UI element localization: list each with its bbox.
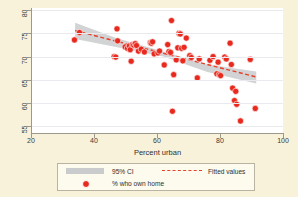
legend-label-fitted: Fitted values: [208, 168, 245, 175]
legend-label-ci: 95% CI: [112, 168, 134, 175]
y-tick: [27, 126, 31, 127]
x-tick-label: 40: [79, 137, 109, 144]
fitted-line: [75, 31, 256, 77]
x-tick-label: 20: [16, 137, 46, 144]
chart-figure: 55606570758020406080100 Percent urban 95…: [0, 0, 298, 197]
marker-swatch: [82, 180, 90, 188]
fitted-line-swatch: [162, 170, 202, 171]
data-point: [237, 118, 243, 124]
data-point: [218, 72, 224, 78]
data-point: [181, 44, 187, 50]
x-tick-label: 60: [142, 137, 172, 144]
ci-band-swatch: [66, 168, 104, 174]
y-tick: [27, 57, 31, 58]
data-point: [167, 49, 173, 55]
gridline: [31, 10, 283, 11]
plot-area: [31, 8, 283, 133]
data-point: [183, 35, 189, 41]
y-tick: [27, 103, 31, 104]
data-point: [168, 17, 174, 23]
data-point: [228, 61, 234, 67]
gridline: [31, 80, 283, 81]
x-tick-label: 100: [268, 137, 298, 144]
data-point: [128, 58, 134, 64]
data-point: [141, 49, 147, 55]
gridline: [31, 33, 283, 34]
data-point: [115, 38, 121, 44]
chart-legend: 95% CI Fitted values % who own home: [57, 163, 255, 191]
gridline: [31, 103, 283, 104]
scatter-plot-canvas: [31, 8, 283, 133]
data-point: [233, 88, 239, 94]
data-point: [215, 59, 221, 65]
data-point: [114, 26, 120, 32]
data-point: [169, 108, 175, 114]
data-point: [180, 58, 186, 64]
data-point: [71, 37, 77, 43]
gridline: [31, 126, 283, 127]
x-axis-title: Percent urban: [31, 148, 284, 157]
x-tick-label: 80: [205, 137, 235, 144]
gridline: [31, 57, 283, 58]
y-tick: [27, 10, 31, 11]
legend-label-marker: % who own home: [112, 180, 164, 187]
y-tick: [27, 80, 31, 81]
data-point: [149, 39, 155, 45]
data-point: [161, 62, 167, 68]
y-tick-label: 80: [21, 10, 28, 40]
y-tick: [27, 33, 31, 34]
y-axis-line: [31, 8, 32, 134]
data-point: [171, 72, 177, 78]
data-point: [227, 40, 233, 46]
data-point: [173, 57, 179, 63]
data-point: [165, 41, 171, 47]
data-point: [252, 105, 258, 111]
data-point: [156, 48, 162, 54]
